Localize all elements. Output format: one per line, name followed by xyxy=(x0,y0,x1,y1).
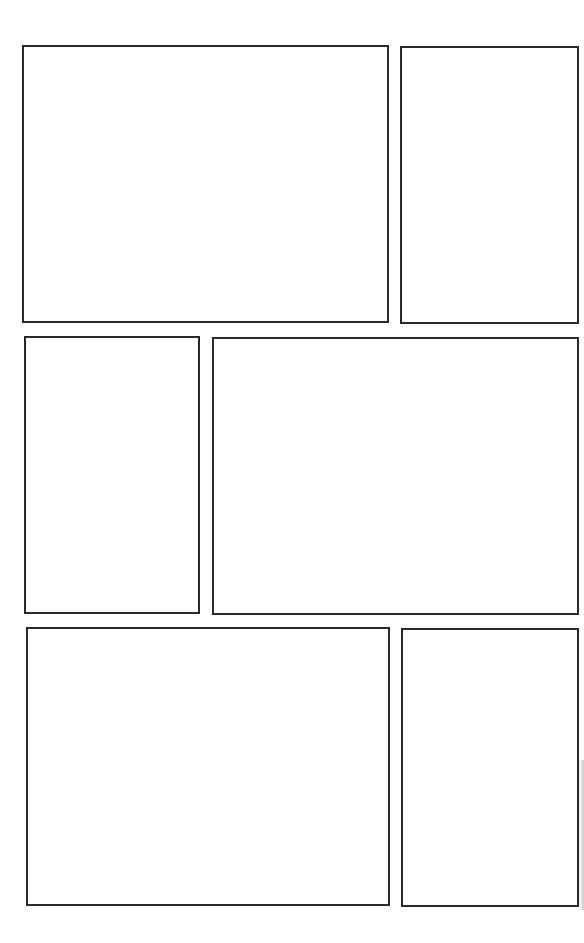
panel-6 xyxy=(401,628,579,907)
page-edge-shadow xyxy=(579,760,584,910)
comic-page xyxy=(0,0,584,943)
panel-1 xyxy=(22,45,389,323)
panel-4 xyxy=(212,337,579,615)
panel-2 xyxy=(400,46,579,324)
panel-5 xyxy=(26,627,390,906)
panel-3 xyxy=(24,336,200,614)
